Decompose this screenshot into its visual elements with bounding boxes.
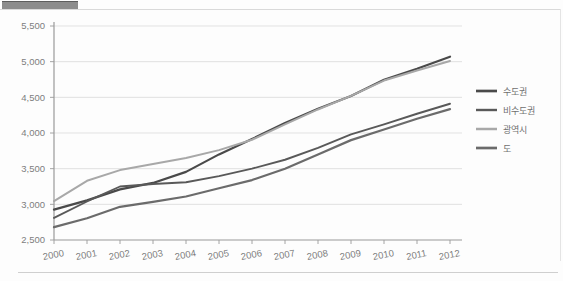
x-tick-label: 2012 [438,247,461,262]
series-lines-group [54,57,450,227]
line-chart: 2,5003,0003,5004,0004,5005,0005,500 2000… [0,8,563,274]
legend-label-비수도권: 비수도권 [503,105,535,116]
x-tick-label: 2010 [372,247,395,262]
x-tick-label: 2003 [141,247,164,262]
y-tick-label: 3,000 [21,199,45,210]
legend-label-광역시: 광역시 [503,124,527,135]
y-axis-tick-labels: 2,5003,0003,5004,0004,5005,0005,500 [21,20,45,245]
x-tick-label: 2002 [108,247,131,262]
x-axis-tick-labels: 2000200120022003200420052006200720082009… [42,247,461,262]
x-tick-label: 2006 [240,247,263,262]
y-tick-label: 5,000 [21,56,45,67]
legend-label-도: 도 [503,144,511,154]
y-tick-label: 5,500 [21,20,45,31]
x-tick-label: 2009 [339,247,362,262]
chart-legend: 수도권비수도권광역시도 [476,86,535,154]
x-tick-label: 2007 [273,247,296,262]
x-tick-label: 2001 [75,247,98,262]
y-tick-label: 4,500 [21,92,45,103]
x-tick-label: 2008 [306,247,329,262]
x-tick-label: 2005 [207,247,230,262]
y-tick-label: 2,500 [21,234,45,245]
y-tick-label: 4,000 [21,127,45,138]
x-tick-label: 2000 [42,247,65,262]
x-tick-label: 2011 [405,247,427,262]
chart-figure: 2,5003,0003,5004,0004,5005,0005,500 2000… [0,0,563,281]
series-line-비수도권 [54,104,450,218]
axis-spines [54,22,462,240]
y-tick-label: 3,500 [21,163,45,174]
x-tick-label: 2004 [174,247,197,262]
legend-label-수도권: 수도권 [503,86,527,97]
